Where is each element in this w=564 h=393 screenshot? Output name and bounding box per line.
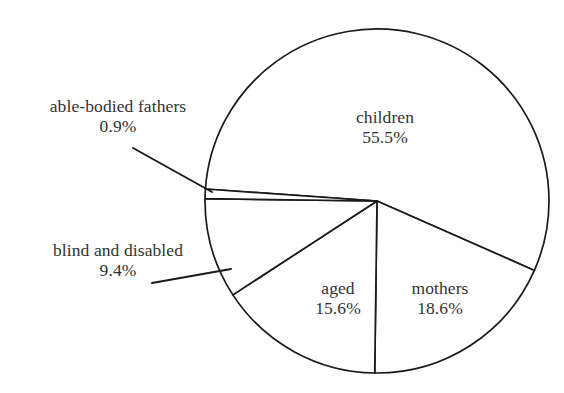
- leader-line-able-bodied-fathers: [133, 148, 212, 192]
- pie-label-blind-and-disabled-name: blind and disabled: [18, 240, 218, 260]
- pie-label-able-bodied-fathers: able-bodied fathers 0.9%: [18, 96, 218, 137]
- pie-label-blind-and-disabled: blind and disabled 9.4%: [18, 240, 218, 281]
- pie-chart-svg: [0, 0, 564, 393]
- pie-label-mothers: mothers 18.6%: [385, 278, 495, 319]
- pie-chart: children 55.5% mothers 18.6% aged 15.6% …: [0, 0, 564, 393]
- pie-label-children: children 55.5%: [300, 107, 470, 148]
- pie-label-mothers-value: 18.6%: [385, 298, 495, 318]
- pie-label-able-bodied-fathers-value: 0.9%: [18, 116, 218, 136]
- pie-label-aged-name: aged: [288, 278, 388, 298]
- pie-label-aged: aged 15.6%: [288, 278, 388, 319]
- pie-label-children-value: 55.5%: [300, 127, 470, 147]
- pie-label-aged-value: 15.6%: [288, 298, 388, 318]
- pie-label-able-bodied-fathers-name: able-bodied fathers: [18, 96, 218, 116]
- pie-label-mothers-name: mothers: [385, 278, 495, 298]
- pie-slices: [205, 29, 549, 373]
- pie-label-blind-and-disabled-value: 9.4%: [18, 260, 218, 280]
- pie-label-children-name: children: [300, 107, 470, 127]
